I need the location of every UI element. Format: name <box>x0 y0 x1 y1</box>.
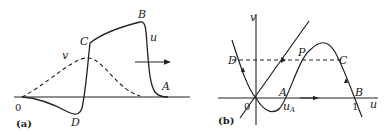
point-c-label: C <box>339 54 348 67</box>
point-a-label: A <box>278 86 287 99</box>
diagram-canvas: 0 A B C D u v (a) v u D P C A B 0 u A 1 <box>0 0 389 135</box>
u-axis-label: u <box>370 98 377 111</box>
point-d-label: D <box>70 116 80 129</box>
ua-subscript: A <box>289 106 295 114</box>
point-d-label: D <box>227 54 237 67</box>
point-b-label: B <box>354 86 363 99</box>
v-axis-label: v <box>250 11 257 24</box>
u-curve <box>22 22 168 114</box>
origin-label: 0 <box>15 102 21 113</box>
panel-b: v u D P C A B 0 u A 1 (b) <box>218 11 378 126</box>
point-a-label: A <box>161 80 170 93</box>
panel-b-tag: (b) <box>218 115 234 126</box>
panel-a-tag: (a) <box>16 118 32 129</box>
point-c-label: C <box>80 35 89 48</box>
v-label: v <box>62 49 69 62</box>
panel-a: 0 A B C D u v (a) <box>14 8 190 129</box>
v-curve <box>22 58 140 97</box>
point-p-label: P <box>297 46 306 59</box>
cubic-nullcline <box>232 40 362 117</box>
point-b-label: B <box>137 8 146 21</box>
arrow-mid <box>281 57 286 63</box>
one-label: 1 <box>352 101 358 112</box>
u-label: u <box>150 31 157 44</box>
origin-label: 0 <box>244 101 250 112</box>
